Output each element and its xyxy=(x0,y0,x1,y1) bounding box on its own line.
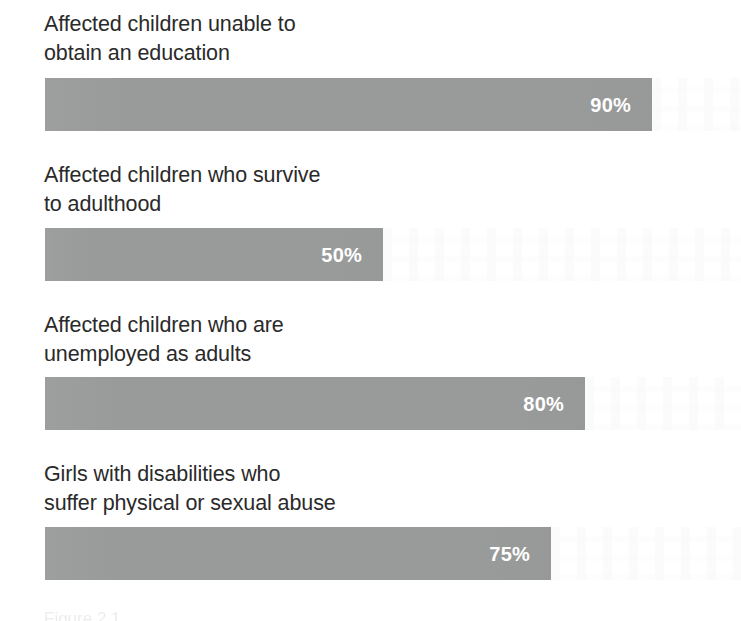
bar-fill: 50% xyxy=(45,228,383,281)
bar-group: Affected children unable to obtain an ed… xyxy=(0,0,741,155)
bar-label: Affected children unable to obtain an ed… xyxy=(44,10,604,67)
figure-caption: Figure 2.1 xyxy=(44,609,121,621)
bar-group: Affected children who survive to adultho… xyxy=(0,155,741,305)
bar-fill: 90% xyxy=(45,78,652,131)
bar-value-label: 90% xyxy=(590,95,631,115)
bar-value-label: 75% xyxy=(489,544,530,564)
bar-track: 90% xyxy=(45,78,741,131)
bar-track: 50% xyxy=(45,228,741,281)
bar-value-label: 50% xyxy=(321,245,362,265)
bar-label: Affected children who survive to adultho… xyxy=(44,161,604,218)
bar-track: 75% xyxy=(45,527,741,580)
bar-track: 80% xyxy=(45,377,741,430)
bar-group: Girls with disabilities who suffer physi… xyxy=(0,455,741,617)
bar-label: Affected children who are unemployed as … xyxy=(44,311,604,368)
bar-label: Girls with disabilities who suffer physi… xyxy=(44,460,604,517)
bar-fill: 75% xyxy=(45,527,551,580)
bar-fill: 80% xyxy=(45,377,585,430)
bar-value-label: 80% xyxy=(523,394,564,414)
bar-group: Affected children who are unemployed as … xyxy=(0,305,741,455)
